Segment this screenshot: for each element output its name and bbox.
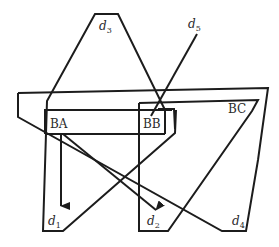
label-bb: BB [143,117,161,131]
label-d2: d2 [147,214,160,230]
label-ba: BA [50,117,68,131]
diagram-canvas: BA BB BC d3 d5 d1 d2 d4 [0,0,279,247]
label-d5: d5 [188,17,201,33]
line-d5 [151,34,197,116]
label-d4: d4 [232,214,245,230]
label-d3: d3 [99,19,112,35]
label-bc: BC [228,102,246,116]
label-d1: d1 [48,214,61,230]
arrow-ba-to-d2 [63,134,156,210]
